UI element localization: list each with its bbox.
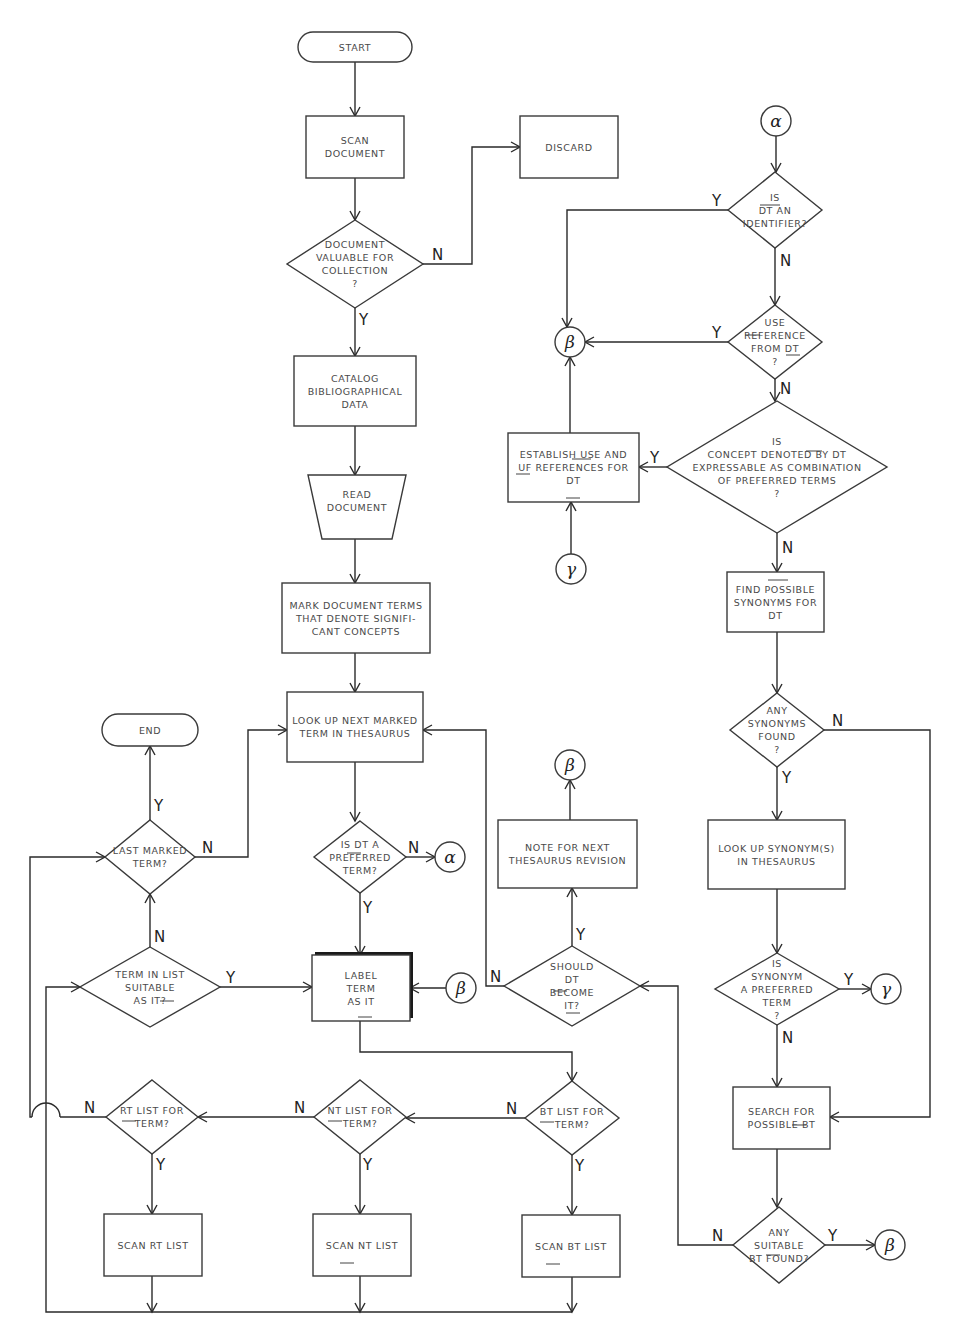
flowchart-canvas: STARTSCANDOCUMENTDISCARDDOCUMENTVALUABLE… bbox=[0, 0, 954, 1342]
node-text-line: SHOULD bbox=[550, 961, 594, 972]
process-box bbox=[733, 1087, 830, 1149]
node-text-line: TERM IN THESAURUS bbox=[299, 728, 411, 739]
yes-branch-label: Y bbox=[649, 449, 660, 467]
node-text-line: LABEL bbox=[345, 970, 378, 981]
node-text-line: TERM bbox=[345, 983, 375, 994]
node-text-line: CONCEPT DENOTED BY DT bbox=[708, 449, 847, 460]
node-text-line: SUITABLE bbox=[754, 1240, 804, 1251]
connector-symbol: β bbox=[884, 1235, 895, 1255]
node-text-line: DATA bbox=[342, 399, 369, 410]
node-should-become: SHOULDDTBECOMEIT? bbox=[504, 946, 640, 1026]
node-text-line: AS IT bbox=[347, 996, 374, 1007]
node-text-line: DT bbox=[566, 475, 580, 486]
node-text-line: DT bbox=[565, 974, 579, 985]
flow-edge bbox=[195, 730, 287, 857]
yes-branch-label: Y bbox=[362, 1156, 373, 1174]
node-note-revision: NOTE FOR NEXTTHESAURUS REVISION bbox=[498, 820, 637, 888]
node-catalog: CATALOGBIBLIOGRAPHICALDATA bbox=[294, 356, 416, 426]
node-last-marked: LAST MARKEDTERM? bbox=[105, 820, 195, 894]
node-text-line: SEARCH FOR bbox=[748, 1106, 815, 1117]
node-doc-valuable: DOCUMENTVALUABLE FORCOLLECTION? bbox=[287, 220, 423, 308]
node-text-line: DOCUMENT bbox=[325, 148, 385, 159]
flow-edge bbox=[360, 1021, 572, 1081]
node-text-line: DOCUMENT bbox=[325, 239, 385, 250]
node-text-line: EXPRESSABLE AS COMBINATION bbox=[692, 462, 861, 473]
node-search-bt: SEARCH FORPOSSIBLE BT bbox=[733, 1087, 830, 1149]
connectors-layer: αβγαββγβ bbox=[435, 106, 905, 1260]
node-scan-bt: SCAN BT LIST bbox=[522, 1215, 620, 1277]
node-text-line: SCAN NT LIST bbox=[326, 1240, 398, 1251]
yes-branch-label: Y bbox=[711, 192, 722, 210]
node-text-line: ? bbox=[774, 488, 780, 499]
connector-beta-bottom-icon: β bbox=[875, 1230, 905, 1260]
decision-diamond bbox=[287, 220, 423, 308]
flow-edge bbox=[567, 210, 728, 327]
process-box bbox=[498, 820, 637, 888]
node-text-line: OF PREFERRED TERMS bbox=[718, 475, 837, 486]
connector-symbol: β bbox=[564, 755, 575, 775]
node-is-synonym-pref: ISSYNONYMA PREFERREDTERM? bbox=[715, 953, 839, 1025]
node-text-line: SCAN BT LIST bbox=[535, 1241, 607, 1252]
node-scan-rt: SCAN RT LIST bbox=[104, 1214, 202, 1276]
node-text-line: RT LIST FOR bbox=[120, 1105, 184, 1116]
node-label-it: LABELTERMAS IT bbox=[312, 952, 413, 1021]
node-text-line: UF REFERENCES FOR bbox=[518, 462, 629, 473]
node-text-line: DISCARD bbox=[545, 142, 592, 153]
node-text-line: VALUABLE FOR bbox=[316, 252, 394, 263]
yes-branch-label: Y bbox=[781, 769, 792, 787]
node-text-line: FROM DT bbox=[751, 343, 799, 354]
node-text-line: SYNONYMS bbox=[748, 718, 806, 729]
node-text-line: IS bbox=[772, 958, 782, 969]
node-text-line: TERM? bbox=[342, 865, 378, 876]
node-discard: DISCARD bbox=[520, 116, 618, 178]
node-bt-list: BT LIST FORTERM? bbox=[525, 1081, 619, 1155]
flow-edge bbox=[640, 986, 733, 1245]
node-text-line: LOOK UP SYNONYM(S) bbox=[718, 843, 835, 854]
node-text-line: READ bbox=[343, 489, 372, 500]
connector-symbol: β bbox=[564, 332, 575, 352]
node-text-line: THAT DENOTE SIGNIFI- bbox=[295, 613, 416, 624]
node-text-line: MARK DOCUMENT TERMS bbox=[289, 600, 422, 611]
node-text-line: CANT CONCEPTS bbox=[312, 626, 400, 637]
node-text-line: BECOME bbox=[550, 987, 594, 998]
node-establish-use: ESTABLISH USE ANDUF REFERENCES FORDT bbox=[508, 433, 639, 502]
no-branch-label: N bbox=[84, 1099, 95, 1117]
node-mark-terms: MARK DOCUMENT TERMSTHAT DENOTE SIGNIFI-C… bbox=[282, 583, 430, 653]
node-text-line: LAST MARKED bbox=[113, 845, 187, 856]
no-branch-label: N bbox=[832, 712, 843, 730]
no-branch-label: N bbox=[782, 539, 793, 557]
node-nt-list: NT LIST FORTERM? bbox=[314, 1080, 406, 1154]
connector-beta-label-icon: β bbox=[446, 973, 476, 1003]
node-text-line: BT LIST FOR bbox=[540, 1106, 604, 1117]
node-text-line: START bbox=[339, 42, 371, 53]
node-text-line: TERM bbox=[761, 997, 791, 1008]
node-text-line: FIND POSSIBLE bbox=[736, 584, 815, 595]
node-text-line: NOTE FOR NEXT bbox=[525, 842, 610, 853]
decision-diamond bbox=[525, 1081, 619, 1155]
node-text-line: IT? bbox=[564, 1000, 579, 1011]
no-branch-label: N bbox=[782, 1029, 793, 1047]
yes-branch-label: Y bbox=[155, 1156, 166, 1174]
yes-branch-label: Y bbox=[153, 797, 164, 815]
node-text-line: SYNONYM bbox=[751, 971, 803, 982]
node-concept-expressable: ISCONCEPT DENOTED BY DTEXPRESSABLE AS CO… bbox=[667, 401, 887, 533]
node-text-line: LOOK UP NEXT MARKED bbox=[292, 715, 417, 726]
node-text-line: SUITABLE bbox=[125, 982, 175, 993]
node-text-line: DT bbox=[768, 610, 782, 621]
node-text-line: SCAN bbox=[341, 135, 370, 146]
node-text-line: THESAURUS REVISION bbox=[508, 855, 626, 866]
process-box bbox=[287, 692, 423, 762]
node-end: END bbox=[102, 714, 198, 746]
connector-beta-top-icon: β bbox=[555, 750, 585, 780]
node-text-line: TERM IN LIST bbox=[114, 969, 185, 980]
yes-branch-label: Y bbox=[225, 969, 236, 987]
node-any-suitable-bt: ANYSUITABLEBT FOUND? bbox=[733, 1207, 825, 1283]
node-text-line: NT LIST FOR bbox=[327, 1105, 392, 1116]
process-box bbox=[306, 116, 404, 178]
no-branch-label: N bbox=[408, 839, 419, 857]
node-text-line: ? bbox=[352, 278, 358, 289]
node-any-synonyms: ANYSYNONYMSFOUND? bbox=[730, 693, 824, 767]
connector-beta-left-icon: β bbox=[555, 327, 585, 357]
connector-gamma-right-icon: γ bbox=[871, 974, 901, 1004]
node-text-line: TERM? bbox=[134, 1118, 170, 1129]
